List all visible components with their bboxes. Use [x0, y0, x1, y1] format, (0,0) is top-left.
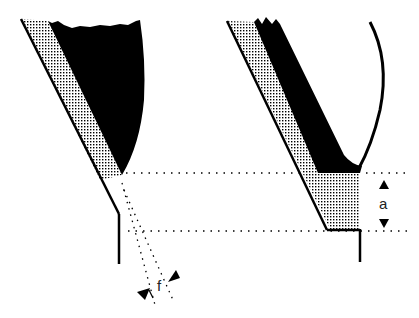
right-curved-flank [358, 22, 383, 170]
diagram-canvas: f a [0, 0, 419, 318]
right-arrow-down [379, 219, 389, 228]
right-arrow-up [379, 180, 389, 189]
left-panel: f [21, 19, 180, 305]
dimension-label-f: f [157, 277, 162, 294]
left-arrow-lower [137, 288, 150, 300]
left-projection-line-2 [124, 190, 173, 300]
left-arrow-upper [168, 270, 180, 282]
dimension-label-a: a [379, 195, 388, 212]
left-arrow-tick [149, 290, 153, 298]
left-projection-line-1 [122, 183, 155, 305]
right-panel: a [227, 17, 389, 262]
right-stipple-region [228, 21, 360, 229]
